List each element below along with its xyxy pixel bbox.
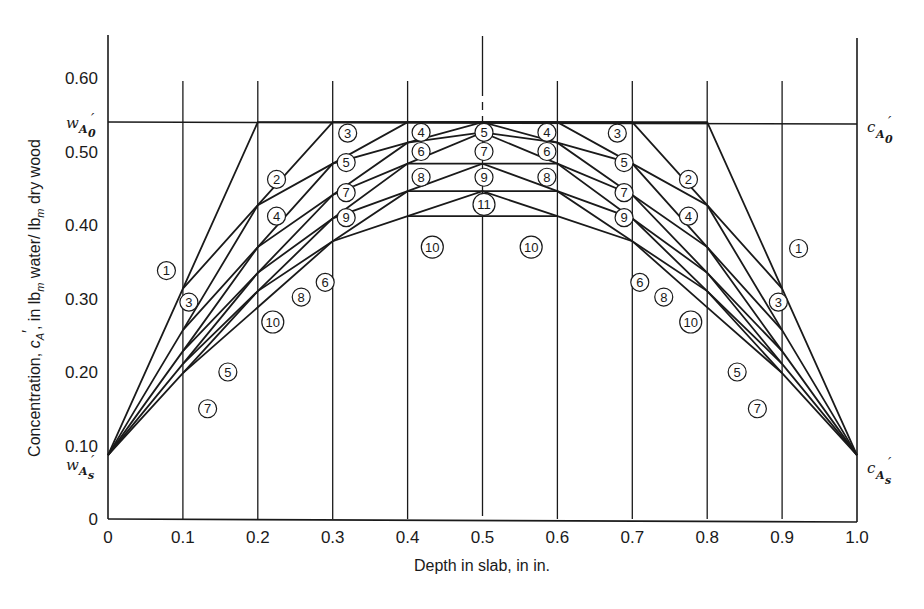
svg-text:5: 5: [343, 155, 350, 170]
step-label-6: 6: [631, 273, 649, 291]
svg-text:3: 3: [775, 295, 782, 310]
step-label-8: 8: [538, 168, 556, 186]
svg-text:1: 1: [795, 241, 802, 256]
svg-text:10: 10: [425, 240, 439, 255]
step-label-7: 7: [337, 184, 355, 202]
svg-text:′: ′: [91, 110, 95, 128]
y-tick-label: 0.30: [65, 290, 98, 309]
step-label-5: 5: [728, 363, 746, 381]
step-label-5: 5: [219, 363, 237, 381]
step-label-7: 7: [199, 400, 217, 418]
step-label-10: 10: [680, 311, 702, 333]
x-tick-label: 0.7: [620, 528, 644, 547]
step-label-2: 2: [268, 170, 286, 188]
step-label-3: 3: [339, 124, 357, 142]
svg-text:4: 4: [685, 209, 692, 224]
svg-text:6: 6: [322, 275, 329, 290]
svg-text:A: A: [875, 469, 885, 482]
svg-text:s: s: [88, 469, 94, 482]
svg-text:c: c: [867, 118, 876, 136]
x-tick-label: 0.4: [396, 528, 420, 547]
step-label-4: 4: [268, 207, 286, 225]
svg-text:2: 2: [273, 172, 280, 187]
svg-text:′: ′: [91, 452, 95, 470]
svg-text:w: w: [66, 114, 79, 132]
svg-text:6: 6: [636, 275, 643, 290]
step-label-1: 1: [157, 262, 175, 280]
step-label-3: 3: [769, 293, 787, 311]
step-label-5: 5: [615, 154, 633, 172]
svg-text:7: 7: [480, 144, 487, 159]
step-label-9: 9: [337, 209, 355, 227]
x-axis: [108, 519, 857, 522]
svg-text:c: c: [867, 459, 876, 477]
svg-text:6: 6: [543, 144, 550, 159]
step-label-9: 9: [475, 168, 493, 186]
svg-text:3: 3: [185, 295, 192, 310]
step-label-1: 1: [790, 240, 808, 258]
step-label-3: 3: [608, 124, 626, 142]
svg-text:6: 6: [417, 144, 424, 159]
step-label-7: 7: [748, 400, 766, 418]
step-label-5: 5: [337, 154, 355, 172]
svg-text:5: 5: [480, 125, 487, 140]
x-tick-label: 0.6: [546, 528, 570, 547]
x-tick-label: 0.5: [471, 528, 495, 547]
y-axis-title: Concentration, cA′, in lbm water/ lbm dr…: [20, 139, 46, 457]
x-tick-label: 0.8: [695, 528, 719, 547]
step-label-6: 6: [538, 143, 556, 161]
svg-text:1: 1: [163, 263, 170, 278]
svg-text:5: 5: [620, 155, 627, 170]
x-tick-label: 1.0: [845, 528, 869, 547]
svg-text:A: A: [78, 123, 88, 136]
svg-text:′: ′: [888, 113, 892, 131]
step-label-2: 2: [679, 170, 697, 188]
svg-text:4: 4: [543, 125, 550, 140]
svg-text:11: 11: [477, 197, 491, 212]
x-tick-label: 0.9: [770, 528, 794, 547]
x-tick-label: 0.3: [321, 528, 345, 547]
svg-text:0: 0: [88, 127, 96, 140]
svg-text:8: 8: [417, 170, 424, 185]
w-as-annotation: w A s ′: [66, 452, 95, 482]
svg-text:5: 5: [734, 365, 741, 380]
step-label-4: 4: [679, 207, 697, 225]
step-label-10: 10: [262, 311, 284, 333]
svg-text:s: s: [885, 474, 891, 487]
svg-text:8: 8: [298, 290, 305, 305]
svg-text:7: 7: [620, 185, 627, 200]
svg-text:A: A: [875, 128, 885, 141]
step-label-7: 7: [615, 184, 633, 202]
step-label-5: 5: [475, 123, 493, 141]
svg-text:9: 9: [343, 210, 350, 225]
svg-text:9: 9: [620, 210, 627, 225]
step-label-10: 10: [520, 236, 542, 258]
step-label-6: 6: [316, 273, 334, 291]
step-label-6: 6: [412, 143, 430, 161]
c-as-annotation: c A s ′: [867, 454, 892, 487]
w-a0-annotation: w A 0 ′: [66, 110, 96, 140]
y-tick-label: 0.50: [65, 143, 98, 162]
step-label-3: 3: [180, 293, 198, 311]
step-label-4: 4: [412, 123, 430, 141]
svg-text:7: 7: [754, 401, 761, 416]
svg-text:10: 10: [266, 315, 280, 330]
svg-text:0: 0: [885, 133, 893, 146]
y-tick-label: 0.60: [65, 69, 98, 88]
svg-text:10: 10: [524, 240, 538, 255]
x-axis-title: Depth in slab, in in.: [414, 557, 550, 574]
svg-text:w: w: [66, 456, 79, 474]
axes: 00.10.20.30.40.50.60.70.80.91.000.100.20…: [65, 35, 869, 547]
step-label-8: 8: [655, 288, 673, 306]
y-tick-label: 0.40: [65, 216, 98, 235]
schmidt-drying-chart: 00.10.20.30.40.50.60.70.80.91.000.100.20…: [0, 0, 924, 609]
step-label-8: 8: [292, 288, 310, 306]
svg-text:′: ′: [888, 454, 892, 472]
step-label-11: 11: [473, 193, 495, 215]
c-a0-annotation: c A 0 ′: [867, 113, 893, 146]
svg-text:10: 10: [683, 315, 697, 330]
svg-text:9: 9: [480, 170, 487, 185]
step-label-10: 10: [421, 236, 443, 258]
svg-text:4: 4: [273, 209, 280, 224]
step-label-7: 7: [475, 143, 493, 161]
